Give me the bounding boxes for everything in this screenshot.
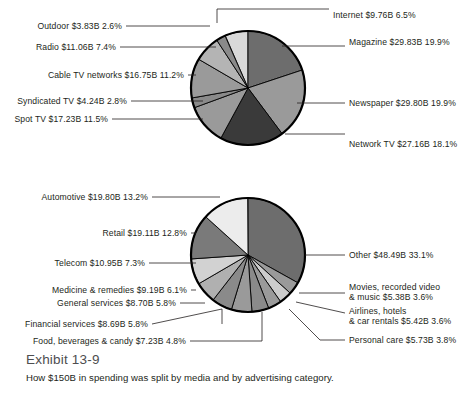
leader-food — [190, 312, 262, 341]
pie-charts-svg: Internet $9.76B 6.5% Magazine $29.83B 19… — [0, 0, 464, 348]
label-cable-tv-networks: Cable TV networks $16.75B 11.2% — [48, 70, 184, 80]
exhibit-subtitle: How $150B in spending was split by media… — [26, 372, 456, 383]
exhibit-figure: Internet $9.76B 6.5% Magazine $29.83B 19… — [0, 0, 464, 405]
label-movies-line2: & music $5.38B 3.6% — [349, 292, 433, 302]
label-food-beverages: Food, beverages & candy $7.23B 4.8% — [33, 336, 186, 346]
label-automotive: Automotive $19.80B 13.2% — [41, 192, 148, 202]
label-other: Other $48.49B 33.1% — [349, 250, 434, 260]
label-medicine-remedies: Medicine & remedies $9.19B 6.1% — [52, 285, 187, 295]
leader-financial-services — [152, 309, 222, 324]
label-network-tv: Network TV $27.16B 18.1% — [349, 139, 458, 149]
label-magazine: Magazine $29.83B 19.9% — [349, 37, 450, 47]
leader-airlines — [296, 302, 345, 313]
label-telecom: Telecom $10.95B 7.3% — [55, 258, 146, 268]
label-newspaper: Newspaper $29.80B 19.9% — [349, 98, 456, 108]
label-movies-line1: Movies, recorded video — [349, 282, 440, 292]
label-outdoor: Outdoor $3.83B 2.6% — [37, 21, 122, 31]
label-financial-services: Financial services $8.69B 5.8% — [25, 319, 148, 329]
label-airlines-line1: Airlines, hotels — [349, 306, 407, 316]
label-radio: Radio $11.06B 7.4% — [36, 42, 116, 52]
label-personal-care: Personal care $5.73B 3.8% — [349, 335, 456, 345]
leader-internet — [217, 9, 329, 23]
label-internet: Internet $9.76B 6.5% — [333, 10, 416, 20]
label-airlines-line2: & car rentals $5.42B 3.6% — [349, 316, 452, 326]
label-syndicated-tv: Syndicated TV $4.24B 2.8% — [17, 96, 127, 106]
media-pie-chart — [191, 31, 305, 145]
exhibit-title: Exhibit 13-9 — [26, 352, 456, 367]
label-general-services: General services $8.70B 5.8% — [57, 298, 176, 308]
label-spot-tv: Spot TV $17.23B 11.5% — [14, 114, 108, 124]
leader-personal-care — [289, 309, 345, 340]
category-pie-chart — [191, 198, 305, 312]
label-retail: Retail $19.11B 12.8% — [103, 228, 188, 238]
exhibit-caption: Exhibit 13-9 How $150B in spending was s… — [26, 352, 456, 383]
